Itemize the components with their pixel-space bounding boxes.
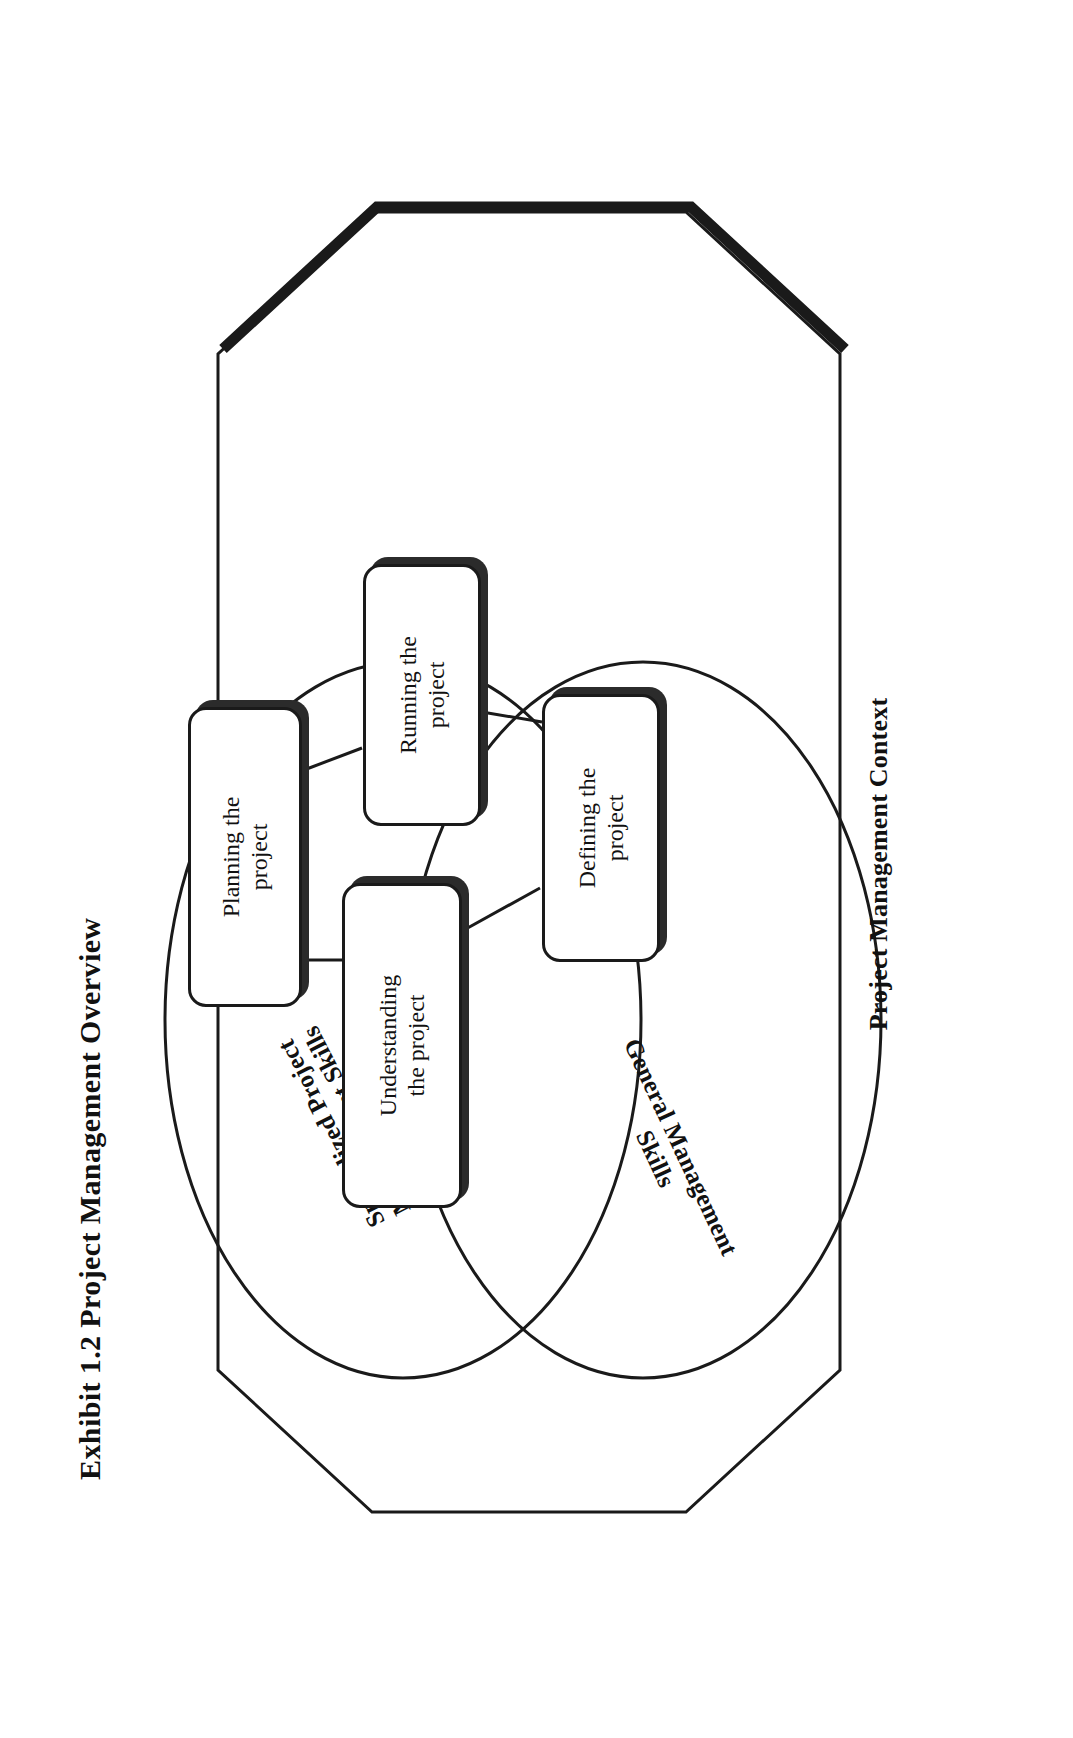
page-title: Exhibit 1.2 Project Management Overview	[58, 0, 122, 1480]
process-box-understanding-the-project[interactable]: Understanding the project	[342, 883, 462, 1208]
process-box-defining-the-project[interactable]: Defining the project	[542, 694, 660, 962]
exhibit-page: Exhibit 1.2 Project Management Overview	[0, 0, 1073, 1738]
octagon-label-project-management-context: Project Management Context	[864, 654, 894, 1074]
project-management-overview-diagram: Specialized Project Management Skills Ge…	[120, 160, 920, 1560]
process-box-running-the-project[interactable]: Running the project	[363, 564, 481, 826]
octagon-project-management-context	[218, 212, 840, 1512]
process-box-planning-the-project[interactable]: Planning the project	[188, 707, 302, 1007]
diagram-rotation-wrapper: Specialized Project Management Skills Ge…	[120, 160, 920, 1560]
